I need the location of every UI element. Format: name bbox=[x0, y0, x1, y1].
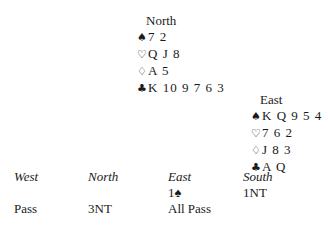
north-hearts: ♡Q J 8 bbox=[137, 46, 225, 63]
heart-icon: ♡ bbox=[137, 47, 148, 63]
auction-bid: 1♠ bbox=[168, 185, 181, 201]
spade-icon: ♠ bbox=[251, 109, 262, 125]
north-title: North bbox=[137, 13, 225, 29]
auction-bid: 3NT bbox=[88, 201, 112, 217]
north-diamonds: ♢A 5 bbox=[137, 63, 225, 80]
auction-bid: 1NT bbox=[243, 185, 267, 201]
east-spades: ♠K Q 9 5 4 bbox=[251, 108, 322, 125]
auction-bid: All Pass bbox=[168, 201, 211, 217]
auction-bid: Pass bbox=[14, 201, 37, 217]
north-clubs: ♣K 10 9 7 6 3 bbox=[137, 80, 225, 97]
east-title: East bbox=[251, 92, 322, 108]
north-hand: North ♠7 2 ♡Q J 8 ♢A 5 ♣K 10 9 7 6 3 bbox=[137, 13, 225, 97]
heart-icon: ♡ bbox=[251, 126, 262, 142]
east-hearts: ♡7 6 2 bbox=[251, 125, 322, 142]
auction-header-west: West bbox=[14, 169, 38, 185]
spade-icon: ♠ bbox=[137, 30, 148, 46]
club-icon: ♣ bbox=[137, 81, 148, 97]
north-spades: ♠7 2 bbox=[137, 29, 225, 46]
auction-header-south: South bbox=[243, 169, 273, 185]
diamond-icon: ♢ bbox=[137, 64, 148, 80]
east-diamonds: ♢J 8 3 bbox=[251, 142, 322, 159]
east-hand: East ♠K Q 9 5 4 ♡7 6 2 ♢J 8 3 ♣A Q bbox=[251, 92, 322, 176]
diamond-icon: ♢ bbox=[251, 143, 262, 159]
auction-header-east: East bbox=[168, 169, 191, 185]
auction-header-north: North bbox=[88, 169, 118, 185]
